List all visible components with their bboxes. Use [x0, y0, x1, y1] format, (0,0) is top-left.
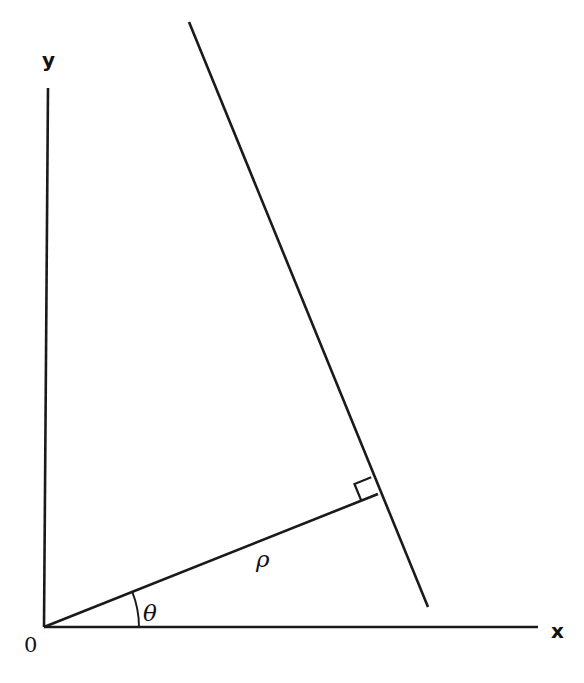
rho-label: ρ: [256, 548, 270, 571]
angle-arc-theta: [132, 592, 139, 627]
normal-segment-rho: [44, 494, 378, 627]
theta-label: θ: [143, 602, 157, 625]
y-axis-label: y: [42, 50, 55, 70]
straight-line: [189, 22, 428, 607]
y-axis-line: [44, 88, 48, 627]
geometry-figure: [0, 0, 584, 683]
x-axis-label: x: [551, 621, 564, 641]
origin-label: 0: [24, 635, 37, 656]
diagram-canvas: y x 0 ρ θ: [0, 0, 584, 683]
